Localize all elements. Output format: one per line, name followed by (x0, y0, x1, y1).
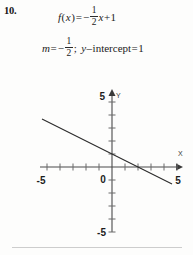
fraction-one-half: 1 2 (90, 6, 98, 27)
graph-svg: X Y 0 -5 5 5 -5 (0, 78, 193, 238)
answer-key-item: 10. f ( x ) = − 1 2 x + 1 m = − 1 (0, 0, 193, 255)
equals-sign: = (131, 42, 138, 54)
semicolon: ; (73, 42, 77, 54)
origin-label: 0 (100, 174, 106, 185)
equation-line-1: f ( x ) = − 1 2 x + 1 (36, 2, 191, 32)
equals-sign: = (50, 42, 57, 54)
intercept-value: 1 (138, 42, 144, 54)
coordinate-graph: X Y 0 -5 5 5 -5 (0, 78, 193, 238)
fraction-numerator: 1 (65, 37, 73, 47)
equation-block: f ( x ) = − 1 2 x + 1 m = − 1 2 ; (36, 2, 191, 62)
fraction-numerator: 1 (90, 6, 98, 16)
bottom-divider (12, 247, 182, 248)
fraction-one-half: 1 2 (65, 37, 73, 58)
x-min-label: -5 (37, 175, 46, 186)
equation-line-2: m = − 1 2 ; y – intercept = 1 (36, 34, 191, 62)
fraction-denominator: 2 (65, 48, 73, 58)
constant-term: 1 (111, 11, 117, 23)
x-max-label: 5 (175, 175, 181, 186)
function-line (42, 119, 172, 184)
y-axis-label: Y (116, 92, 121, 99)
x-axis-label: X (178, 150, 183, 157)
problem-number: 10. (4, 5, 17, 16)
y-max-label: 5 (99, 91, 105, 102)
plus-sign: + (103, 11, 110, 23)
slope-symbol: m (42, 42, 50, 54)
minus-sign: − (83, 11, 90, 23)
equals-sign: = (75, 11, 82, 23)
y-min-label: -5 (97, 227, 106, 238)
y-axis-arrow-icon (109, 89, 116, 96)
fraction-denominator: 2 (90, 17, 98, 27)
minus-sign: − (57, 42, 64, 54)
intercept-word: intercept (93, 42, 131, 54)
